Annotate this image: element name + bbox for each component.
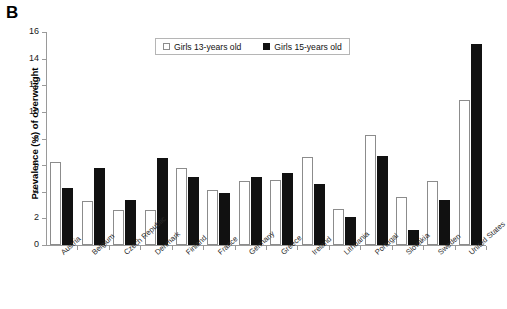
chart-legend: Girls 13-years oldGirls 15-years old bbox=[155, 38, 350, 55]
y-axis-tick-mark bbox=[42, 218, 47, 219]
x-axis-tick-mark bbox=[203, 246, 204, 250]
bar bbox=[333, 209, 344, 245]
y-axis-tick-label: 4 bbox=[34, 186, 39, 196]
x-axis-tick-mark bbox=[77, 246, 78, 250]
x-axis-tick-mark bbox=[235, 246, 236, 250]
y-axis-tick-mark bbox=[42, 112, 47, 113]
bar bbox=[207, 190, 218, 245]
bar bbox=[377, 156, 388, 245]
x-axis-tick-mark bbox=[455, 246, 456, 250]
x-axis-tick-mark bbox=[172, 246, 173, 250]
bar bbox=[82, 201, 93, 245]
bar bbox=[314, 184, 325, 245]
legend-entry: Girls 15-years old bbox=[263, 42, 341, 52]
y-axis-tick-mark bbox=[42, 139, 47, 140]
x-axis-tick-mark bbox=[486, 246, 487, 250]
y-axis-tick-mark bbox=[42, 165, 47, 166]
legend-swatch-icon bbox=[163, 43, 170, 50]
x-axis-tick-mark bbox=[266, 246, 267, 250]
y-axis-tick-label: 2 bbox=[34, 212, 39, 222]
y-axis-tick-label: 10 bbox=[29, 106, 39, 116]
bar bbox=[62, 188, 73, 245]
bar bbox=[282, 173, 293, 245]
bar bbox=[157, 158, 168, 245]
bar bbox=[239, 181, 250, 245]
legend-label: Girls 15-years old bbox=[274, 42, 341, 52]
y-axis-tick-mark bbox=[42, 32, 47, 33]
x-axis-tick-mark bbox=[392, 246, 393, 250]
y-axis-tick-mark bbox=[42, 85, 47, 86]
bar bbox=[251, 177, 262, 245]
x-axis-tick-mark bbox=[140, 246, 141, 250]
y-axis-tick-label: 16 bbox=[29, 26, 39, 36]
x-axis-tick-mark bbox=[423, 246, 424, 250]
y-axis-tick-label: 14 bbox=[29, 53, 39, 63]
x-axis-tick-mark bbox=[329, 246, 330, 250]
legend-entry: Girls 13-years old bbox=[163, 42, 241, 52]
bar bbox=[365, 135, 376, 245]
legend-swatch-icon bbox=[263, 43, 270, 50]
y-axis-tick-label: 12 bbox=[29, 79, 39, 89]
y-axis-tick-label: 6 bbox=[34, 159, 39, 169]
bar bbox=[302, 157, 313, 245]
bar bbox=[471, 44, 482, 245]
bar bbox=[94, 168, 105, 245]
panel-letter: B bbox=[6, 4, 18, 21]
y-axis-tick-mark bbox=[42, 192, 47, 193]
y-axis-tick-label: 0 bbox=[34, 239, 39, 249]
y-axis-tick-mark bbox=[42, 245, 47, 246]
plot-area: 0246810121416 AustriaBelgiumCzech Republ… bbox=[46, 32, 486, 246]
bar bbox=[459, 100, 470, 245]
bar bbox=[50, 162, 61, 245]
bar bbox=[188, 177, 199, 245]
x-axis-tick-mark bbox=[360, 246, 361, 250]
x-axis-tick-mark bbox=[109, 246, 110, 250]
x-axis-tick-mark bbox=[297, 246, 298, 250]
legend-label: Girls 13-years old bbox=[174, 42, 241, 52]
y-axis-tick-mark bbox=[42, 59, 47, 60]
y-axis-tick-label: 8 bbox=[34, 133, 39, 143]
